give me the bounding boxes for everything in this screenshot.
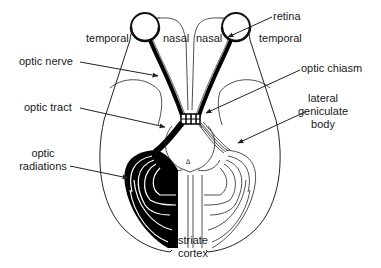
arrow-lateral-geniculate-body [238,112,305,143]
label-lateral-geniculate-body-line3: body [311,118,335,130]
label-temporal-right: temporal [259,32,302,44]
optic-chiasm [181,114,200,124]
arrow-optic-radiations [70,166,128,178]
label-retina: retina [273,10,301,22]
label-lateral-geniculate-body-line2: geniculate [298,105,348,117]
label-nasal-right: nasal [196,32,222,44]
arrow-optic-tract [80,108,165,127]
label-temporal-left: temporal [86,32,129,44]
label-striate-cortex-line2: cortex [178,247,208,259]
label-optic-tract: optic tract [24,101,72,113]
label-optic-chiasm: optic chiasm [301,62,362,74]
label-optic-radiations-line2: radiations [19,160,67,172]
right-eye [222,13,250,41]
svg-text:∆: ∆ [186,158,191,165]
label-optic-radiations-line1: optic [31,147,55,159]
label-striate-cortex-line1: striate [178,234,208,246]
label-nasal-left: nasal [163,32,189,44]
label-optic-nerve: optic nerve [19,55,73,67]
right-optic-radiations [202,150,256,248]
label-lateral-geniculate-body-line1: lateral [308,92,338,104]
left-eye [131,13,159,41]
left-optic-radiations [124,150,178,248]
visual-pathway-diagram: ∆ temporal nasal nasal temporal retina o… [0,0,381,268]
brain-outline [100,18,280,252]
